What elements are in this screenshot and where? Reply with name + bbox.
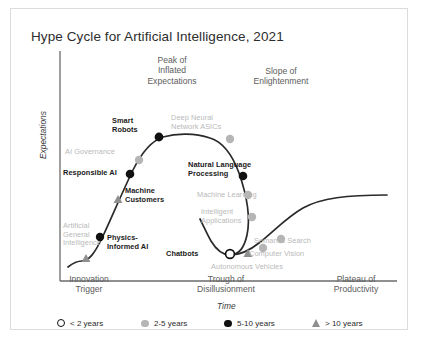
phase-plateau-of-productivity: Plateau of Productivity [311, 274, 401, 295]
hollow-circle-icon [57, 319, 65, 327]
legend-label-over-10-years: > 10 years [325, 319, 363, 328]
label-autonomous-vehicles: Autonomous Vehicles [211, 263, 283, 272]
label-chatbots: Chatbots [166, 250, 198, 259]
marker-chatbots [226, 250, 235, 259]
label-artificial-general-intelligence: Artificial General Intelligence [63, 222, 101, 248]
marker-ai-governance [135, 156, 143, 164]
label-natural-language-processing: Natural Language Processing [188, 161, 251, 178]
gray-triangle-icon [312, 319, 320, 327]
marker-responsible-ai [126, 170, 135, 179]
marker-deep-neural-network-asics [226, 135, 234, 143]
label-machine-customers: Machine Customers [125, 187, 164, 204]
hype-curve-recovery [230, 195, 387, 255]
y-axis-label: Expectations [38, 111, 48, 159]
label-machine-learning: Machine Learning [197, 191, 257, 200]
legend-label-5-10-years: 5-10 years [237, 319, 275, 328]
legend-label-under-2-years: < 2 years [70, 319, 103, 328]
label-ai-governance: AI Governance [65, 148, 115, 157]
gray-circle-icon [141, 320, 149, 328]
marker-intelligent-applications [248, 213, 256, 221]
phase-slope-of-enlightenment: Slope of Enlightenment [226, 66, 336, 87]
chart-card: Hype Cycle for Artificial Intelligence, … [10, 8, 408, 330]
legend: < 2 years 2-5 years 5-10 years > 10 year… [57, 316, 387, 332]
label-semantic-search: Semantic Search [254, 237, 311, 246]
phase-trough-of-disillusionment: Trough of Disillusionment [171, 274, 281, 295]
marker-smart-robots [155, 133, 164, 142]
legend-label-2-5-years: 2-5 years [154, 319, 187, 328]
label-physics-informed-ai: Physics- Informed AI [107, 234, 148, 251]
x-axis-label: Time [217, 301, 236, 311]
phase-peak-of-inflated-expectations: Peak of Inflated Expectations [124, 55, 220, 86]
label-computer-vision: Computer Vision [249, 250, 304, 259]
label-intelligent-applications: Intelligent Applications [201, 208, 241, 225]
black-circle-icon [224, 320, 232, 328]
label-deep-neural-network-asics: Deep Neural Network ASICs [171, 114, 221, 131]
label-responsible-ai: Responsible AI [63, 169, 117, 178]
label-smart-robots: Smart Robots [112, 117, 138, 134]
phase-innovation-trigger: Innovation Trigger [49, 274, 129, 295]
